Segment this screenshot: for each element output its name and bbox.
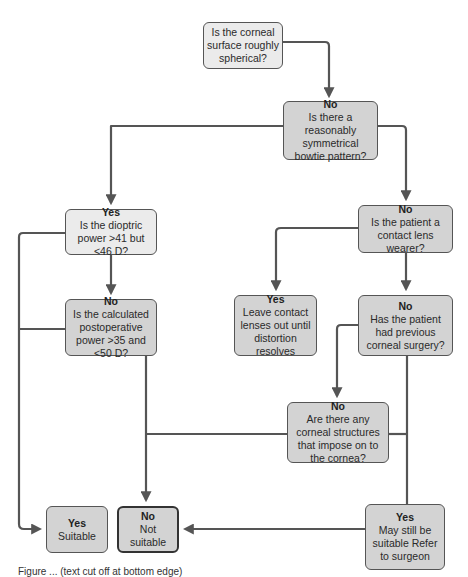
node-text: Is the patient a contact lens wearer? [362,216,449,255]
node-text: Is the dioptric power >41 but <46 D? [69,219,153,258]
node-answer: No [104,295,118,308]
node-suitable: Yes Suitable [46,506,108,553]
node-text: May still be suitable Refer to surgeon [369,524,441,563]
node-text: Leave contact lenses out until distortio… [238,306,313,358]
node-text: Has the patient had previous corneal sur… [362,313,449,352]
figure-caption: Figure ... (text cut off at bottom edge) [18,566,458,577]
node-answer: No [399,300,413,313]
edge-surface-to-bowtie [283,42,329,96]
node-dioptric-power: Yes Is the dioptric power >41 but <46 D? [65,209,157,255]
node-answer: No [331,400,345,413]
edge-dioptric-to-suitable [19,233,65,529]
node-postop-power: No Is the calculated postoperative power… [65,299,157,356]
node-previous-surgery: No Has the patient had previous corneal … [358,295,453,356]
node-answer: Yes [68,517,86,530]
node-text: Are there any corneal structures that im… [291,413,385,465]
edge-surgery-to-structures [337,325,358,396]
node-text: Is the corneal surface roughly spherical… [207,26,279,65]
node-answer: Yes [266,293,284,306]
node-answer: No [324,98,338,111]
node-answer: No [141,510,155,523]
node-text: Is there a reasonably symmetrical bowtie… [287,111,374,163]
node-text: Not suitable [122,523,174,549]
node-corneal-structures: No Are there any corneal structures that… [287,402,389,463]
node-leave-lenses-out: Yes Leave contact lenses out until disto… [234,295,317,356]
edge-bowtie-to-contact [378,126,406,199]
node-corneal-surface: Is the corneal surface roughly spherical… [203,22,283,69]
node-text: Suitable [58,530,96,543]
edge-contact-to-leave [276,228,358,289]
node-contact-lens: No Is the patient a contact lens wearer? [358,205,453,253]
edge-bowtie-to-dioptric [111,126,283,203]
node-not-suitable: No Not suitable [117,506,179,553]
node-answer: No [399,203,413,216]
node-text: Is the calculated postoperative power >3… [69,308,153,360]
node-bowtie: No Is there a reasonably symmetrical bow… [283,101,378,160]
node-refer-surgeon: Yes May still be suitable Refer to surge… [365,504,445,570]
node-answer: Yes [396,511,414,524]
node-answer: Yes [102,206,120,219]
